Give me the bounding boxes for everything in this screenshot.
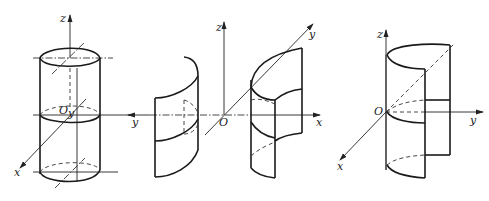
right-sheet-top xyxy=(251,48,302,87)
left-sheet-top-edge xyxy=(184,57,198,76)
top-front-curve xyxy=(387,55,425,69)
z-axis-label: z xyxy=(215,21,222,34)
y-axis-diagonal-label: y xyxy=(308,28,316,41)
right-sheet-front-top xyxy=(251,87,275,100)
figure-parabolic-cylinder: z O y x xyxy=(337,28,483,178)
bottom-front-curve xyxy=(387,165,425,178)
origin-label: O xyxy=(59,104,68,117)
y-axis-label: y xyxy=(469,114,477,127)
right-sheet-hidden-2 xyxy=(251,142,275,156)
x-axis xyxy=(20,99,86,168)
left-sheet-bottom xyxy=(155,150,198,177)
y-axis-diagonal xyxy=(205,24,313,135)
x-axis-label: x xyxy=(14,166,21,179)
right-sheet-bottom-back xyxy=(275,133,302,141)
right-sheet-bottom xyxy=(251,168,275,178)
bottom-back-hidden xyxy=(387,155,425,165)
right-sheet xyxy=(251,48,302,178)
middle-front-curve xyxy=(387,112,425,123)
top-back-curve xyxy=(387,44,450,55)
left-sheet-middle xyxy=(155,119,198,141)
right-sheet-mid-back xyxy=(275,89,302,100)
x-axis-label: x xyxy=(337,160,344,173)
left-sheet xyxy=(155,57,198,177)
origin-label: O xyxy=(219,116,228,129)
left-sheet-top xyxy=(155,76,198,98)
diagonal-hidden xyxy=(386,43,455,112)
middle-back-hidden xyxy=(387,100,425,112)
x-axis-label: x xyxy=(316,116,323,129)
right-sheet-middle xyxy=(251,122,275,138)
figure-elliptic-cylinder: z O y x xyxy=(14,12,130,188)
left-sheet-hidden-curve xyxy=(184,100,198,115)
bottom-ellipse-back xyxy=(40,163,100,172)
x-axis xyxy=(340,112,386,160)
diagram-canvas: z O y x y x z O xyxy=(0,0,489,201)
figure-hyperbolic-cylinder: y x z O y xyxy=(128,21,323,178)
y-axis-left-label: y xyxy=(131,116,139,129)
z-axis-label: z xyxy=(59,12,66,25)
z-axis-label: z xyxy=(376,28,383,41)
